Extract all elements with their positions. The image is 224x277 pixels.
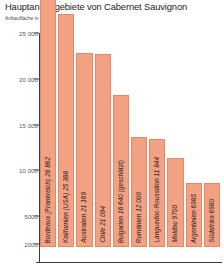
y-tick-mark bbox=[34, 170, 39, 171]
bar-label: Kalifornien (USA) 25 388 bbox=[63, 171, 69, 243]
bar[interactable]: Bordeaux (Frankreich) 28 862 bbox=[40, 0, 56, 247]
y-tick-label: 10 000 bbox=[0, 167, 38, 174]
bar-label: Argentinien 6985 bbox=[191, 194, 197, 243]
bar-label: Rumänien 12 000 bbox=[136, 192, 142, 243]
bar[interactable]: Bulgarien 16 640 (geschätzt) bbox=[113, 95, 129, 247]
y-tick-mark bbox=[34, 243, 39, 244]
y-tick-label: 20 000 bbox=[0, 75, 38, 82]
bar[interactable]: Rumänien 12 000 bbox=[131, 137, 147, 247]
bar-label: Languedoc-Roussillon 11 844 bbox=[154, 157, 160, 243]
bar[interactable]: Australien 21 169 bbox=[76, 53, 92, 247]
y-tick-mark bbox=[34, 124, 39, 125]
y-tick-label: 15 000 bbox=[0, 121, 38, 128]
x-axis-line bbox=[36, 262, 222, 263]
y-tick-mark bbox=[34, 78, 39, 79]
y-tick-label: 5000 bbox=[0, 213, 38, 220]
bar[interactable]: Languedoc-Roussillon 11 844 bbox=[149, 139, 165, 247]
chart-container: Hauptanbaugebiete von Cabernet Sauvignon… bbox=[0, 0, 224, 277]
bar[interactable]: Südafrika 6980 bbox=[204, 183, 220, 247]
bar-label: Moldau 9700 bbox=[172, 205, 178, 243]
y-tick-label: 2000 bbox=[0, 240, 38, 247]
y-tick-mark bbox=[34, 33, 39, 34]
bar[interactable]: Moldau 9700 bbox=[167, 158, 183, 247]
bar-label: Chile 21 094 bbox=[100, 206, 106, 243]
bar-label: Bulgarien 16 640 (geschätzt) bbox=[118, 160, 124, 243]
bar-group: Bordeaux (Frankreich) 28 862Kalifornien … bbox=[40, 0, 220, 262]
bar-label: Australien 21 169 bbox=[81, 192, 87, 243]
bar[interactable]: Argentinien 6985 bbox=[186, 183, 202, 247]
bar-label: Bordeaux (Frankreich) 28 862 bbox=[45, 157, 51, 243]
y-tick-mark bbox=[34, 216, 39, 217]
bar[interactable]: Kalifornien (USA) 25 388 bbox=[58, 14, 74, 247]
bar[interactable]: Chile 21 094 bbox=[95, 54, 111, 247]
y-tick-label: 25 000 bbox=[0, 30, 38, 37]
bar-label: Südafrika 6980 bbox=[209, 199, 215, 243]
